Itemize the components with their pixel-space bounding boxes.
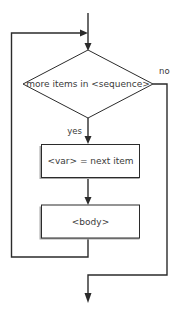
node-assign[interactable]: <var> = next item bbox=[40, 145, 140, 180]
edge-no-branch bbox=[85, 84, 168, 303]
node-decision[interactable]: more items in <sequence> bbox=[23, 50, 153, 118]
arrow-head-exit bbox=[85, 293, 92, 303]
edge-label-no: no bbox=[159, 66, 170, 76]
body-label: <body> bbox=[72, 217, 109, 227]
node-body[interactable]: <body> bbox=[40, 205, 140, 240]
edge-label-yes: yes bbox=[67, 126, 82, 136]
flowchart-svg: more items in <sequence> <var> = next it… bbox=[0, 0, 178, 321]
assign-label: <var> = next item bbox=[47, 156, 133, 166]
edge-assign-to-body bbox=[85, 178, 92, 205]
arrow-head-yes bbox=[85, 136, 92, 144]
edge-yes-branch bbox=[85, 118, 92, 144]
arrow-head-loopback bbox=[80, 30, 88, 37]
flowchart-canvas: more items in <sequence> <var> = next it… bbox=[0, 0, 178, 321]
decision-label: more items in <sequence> bbox=[26, 79, 150, 89]
arrow-head-body bbox=[85, 197, 92, 205]
